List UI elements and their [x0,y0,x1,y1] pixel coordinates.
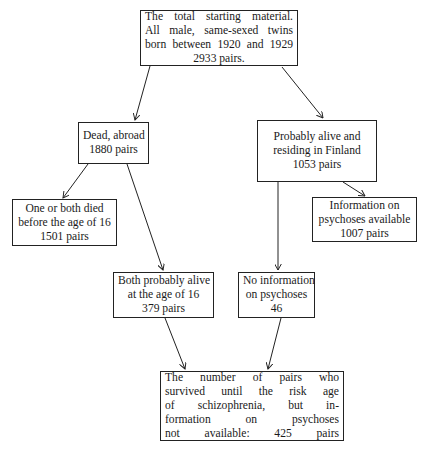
node-text-line: 1501 pairs [17,230,112,244]
node-text-line: at the age of 16 [118,288,209,302]
node-text-line: born between 1920 and 1929 [145,38,293,52]
node-text-line: 379 pairs [118,302,209,316]
node-text-line: 46 [243,302,310,316]
node-alive-in-finland: Probably alive and residing in Finland 1… [257,120,377,182]
node-text-line: The number of pairs who [165,371,339,385]
node-no-information: No information on psychoses 46 [238,272,315,318]
node-text-line: 1880 pairs [83,143,144,157]
node-text-line: Probably alive and [262,130,372,144]
node-text-line: Both probably alive [118,274,209,288]
node-text-line: Dead, abroad [83,129,144,143]
node-text-line: 1007 pairs [317,227,412,241]
node-text-line: before the age of 16 [17,216,112,230]
node-text-line: not available: 425 pairs [165,427,339,441]
node-text-line: No information [243,274,310,288]
arrow-noinfo-to-final [268,318,281,369]
node-died-before-16: One or both died before the age of 16 15… [12,199,117,246]
arrow-alive16-to-final [165,318,185,369]
node-info-available: Information on psychoses available 1007 … [312,197,417,242]
node-text-line: The total starting material. [145,10,293,24]
node-text-line: All male, same-sexed twins [145,24,293,38]
node-text-line: formation on psychoses [165,413,339,427]
node-alive-at-16: Both probably alive at the age of 16 379… [113,272,214,318]
node-text-line: of schizophrenia, but in- [165,399,339,413]
node-text-line: survived until the risk age [165,385,339,399]
node-text-line: Information on [317,199,412,213]
arrow-alive-to-info [343,182,365,196]
node-dead-abroad: Dead, abroad 1880 pairs [78,122,149,164]
node-text-line: on psychoses [243,288,310,302]
node-total-starting-material: The total starting material. All male, s… [140,10,298,66]
node-text-line: One or both died [17,202,112,216]
arrow-dead-to-alive16 [127,164,163,270]
arrow-total-to-dead [135,66,150,120]
node-text-line: psychoses available [317,213,412,227]
node-text-line: residing in Finland [262,144,372,158]
arrow-dead-to-died16 [63,164,88,198]
node-text-line: 2933 pairs. [145,52,293,66]
node-text-line: 1053 pairs [262,158,372,172]
node-info-not-available: The number of pairs who survived until t… [160,371,344,441]
arrow-total-to-alive [282,67,323,118]
